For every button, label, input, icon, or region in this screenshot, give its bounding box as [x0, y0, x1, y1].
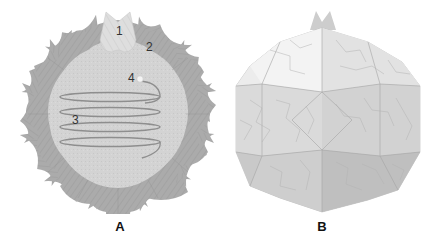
panel-a: 1 2 3 4 A [18, 12, 218, 234]
callout-2: 2 [146, 40, 153, 54]
callout-1: 1 [116, 24, 123, 38]
panel-b: B [236, 11, 420, 234]
panel-label-b: B [317, 219, 326, 234]
figure-canvas: 1 2 3 4 A [0, 0, 425, 245]
coil-end-dot [137, 76, 143, 82]
crown-tab-3d [310, 11, 336, 30]
panel-label-a: A [115, 219, 125, 234]
callout-3: 3 [72, 113, 79, 127]
callout-4: 4 [128, 71, 135, 85]
